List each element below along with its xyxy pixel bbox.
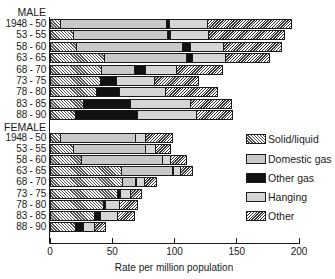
row-label: 53 - 55 [0, 30, 46, 40]
bar-female-2 [50, 155, 187, 165]
bar-segment-othergas [76, 110, 138, 120]
row-label: 58 - 60 [0, 42, 46, 52]
bar-segment-solid [50, 99, 84, 109]
bar-segment-othergas [101, 76, 117, 86]
legend-item-hanging: Hanging [246, 191, 307, 203]
bar-segment-other [156, 144, 171, 154]
bar-segment-solid [50, 200, 104, 210]
x-tick-label: 50 [107, 246, 118, 257]
bar-segment-other [226, 53, 271, 63]
bar-segment-solid [50, 65, 102, 75]
row-label: 53 - 55 [0, 144, 46, 154]
bar-female-1 [50, 144, 171, 154]
legend-label: Other [268, 210, 294, 222]
bar-segment-hanging [121, 189, 131, 199]
bar-segment-other [145, 177, 157, 187]
bar-segment-domestic [105, 53, 187, 63]
bar-segment-other [146, 133, 173, 143]
row-label: 88 - 90 [0, 222, 46, 232]
legend-item-othergas: Other gas [246, 172, 314, 184]
x-tick-mark [50, 238, 51, 244]
group-label-male: MALE [0, 6, 46, 18]
row-label: 73 - 75 [0, 76, 46, 86]
y-axis-line [49, 17, 50, 244]
bar-segment-domestic [77, 42, 183, 52]
bar-segment-othergas [183, 42, 190, 52]
bar-male-1 [50, 30, 285, 40]
bar-segment-othergas [76, 222, 83, 232]
bar-segment-hanging [117, 76, 154, 86]
bar-segment-solid [50, 76, 101, 86]
row-label: 88 - 90 [0, 110, 46, 120]
bar-segment-other [191, 99, 232, 109]
legend-swatch-hanging [246, 192, 266, 202]
bar-segment-solid [50, 30, 74, 40]
bar-segment-hanging [136, 133, 146, 143]
bar-segment-solid [50, 222, 76, 232]
legend-item-other: Other [246, 210, 294, 222]
bar-segment-other [197, 110, 233, 120]
bar-segment-other [166, 87, 218, 97]
bar-segment-hanging [146, 65, 177, 75]
bar-female-8 [50, 222, 106, 232]
bar-segment-solid [50, 133, 61, 143]
row-label: 1948 - 50 [0, 19, 46, 29]
legend-item-domestic: Domestic gas [246, 153, 332, 165]
bar-segment-domestic [123, 177, 135, 187]
stacked-bar-chart: MALE1948 - 5053 - 5558 - 6063 - 6568 - 7… [0, 0, 335, 279]
bar-male-4 [50, 65, 223, 75]
bar-segment-other [95, 222, 106, 232]
bar-segment-hanging [163, 155, 170, 165]
bar-male-0 [50, 19, 292, 29]
x-tick-label: 200 [291, 246, 308, 257]
bar-segment-solid [50, 144, 74, 154]
row-label: 1948 - 50 [0, 133, 46, 143]
row-label: 68 - 70 [0, 177, 46, 187]
bar-male-6 [50, 87, 218, 97]
legend-swatch-othergas [246, 173, 266, 183]
bar-segment-solid [50, 177, 123, 187]
bar-segment-domestic [122, 166, 173, 176]
bar-segment-hanging [171, 30, 210, 40]
bar-male-2 [50, 42, 282, 52]
bar-segment-hanging [193, 53, 225, 63]
row-label: 68 - 70 [0, 65, 46, 75]
bar-segment-domestic [61, 133, 136, 143]
bar-segment-hanging [84, 222, 95, 232]
bar-segment-solid [50, 166, 122, 176]
bar-segment-other [177, 65, 223, 75]
bar-segment-hanging [131, 99, 191, 109]
legend-swatch-other [246, 211, 266, 221]
bar-segment-other [209, 30, 285, 40]
row-label: 73 - 75 [0, 189, 46, 199]
legend-label: Domestic gas [268, 153, 332, 165]
legend-label: Solid/liquid [268, 133, 319, 145]
bar-segment-other [208, 19, 291, 29]
bar-segment-domestic [82, 155, 163, 165]
bar-segment-solid [50, 155, 82, 165]
bar-segment-domestic [61, 19, 167, 29]
row-label: 78 - 80 [0, 200, 46, 210]
bar-segment-other [155, 76, 200, 86]
bar-segment-othergas [84, 99, 131, 109]
x-axis-title: Rate per million population [115, 262, 233, 273]
bar-segment-hanging [137, 177, 144, 187]
legend-swatch-domestic [246, 154, 266, 164]
bar-segment-other [131, 189, 142, 199]
legend-label: Other gas [268, 172, 314, 184]
bar-segment-solid [50, 110, 76, 120]
row-label: 58 - 60 [0, 155, 46, 165]
bar-segment-solid [50, 42, 77, 52]
row-label: 63 - 65 [0, 53, 46, 63]
bar-female-3 [50, 166, 193, 176]
x-tick-mark [299, 238, 300, 244]
x-tick-mark [112, 238, 113, 244]
x-tick-label: 150 [228, 246, 245, 257]
row-label: 63 - 65 [0, 166, 46, 176]
bar-segment-hanging [170, 19, 209, 29]
bar-segment-other [224, 42, 281, 52]
bar-segment-domestic [74, 144, 146, 154]
bar-segment-domestic [102, 65, 134, 75]
bar-segment-solid [50, 189, 118, 199]
bar-segment-solid [50, 211, 95, 221]
